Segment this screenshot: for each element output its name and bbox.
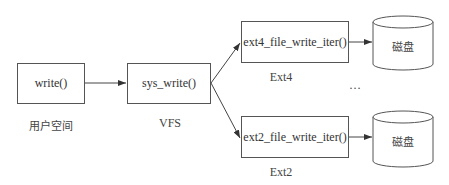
edge-sys-write-to-ext4 [211, 43, 240, 83]
ext4-box: ext4_file_write_iter() [241, 21, 349, 63]
sys-write-label: sys_write() [142, 76, 196, 91]
write-label: write() [35, 76, 68, 91]
edge-sys-write-to-ext2 [211, 83, 240, 138]
user-space-caption: 用户空间 [29, 117, 73, 133]
disk-label-ext4: 磁盘 [392, 38, 414, 54]
ellipsis: … [349, 78, 361, 93]
disk-label-ext2: 磁盘 [392, 133, 414, 149]
ext2-label: ext2_file_write_iter() [243, 130, 346, 145]
ext2-box: ext2_file_write_iter() [241, 116, 349, 158]
ext2-caption: Ext2 [270, 165, 293, 180]
vfs-caption: VFS [159, 116, 181, 131]
ext4-label: ext4_file_write_iter() [243, 35, 346, 50]
ext4-caption: Ext4 [270, 70, 293, 85]
write-box: write() [17, 63, 85, 104]
sys-write-box: sys_write() [127, 63, 211, 104]
